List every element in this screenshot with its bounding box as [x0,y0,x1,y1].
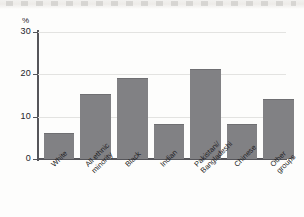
bar-black [117,78,148,159]
y-tick-label-0: 0 [26,154,31,163]
y-tick-label-10: 10 [21,112,31,121]
x-axis-category-labels: White All ethnic minority Black Indian P… [38,161,288,217]
y-tick-label-20: 20 [21,69,31,78]
gridline-30 [38,32,286,33]
plot-area [38,32,286,159]
gridline-10 [38,117,286,118]
y-axis-tick-labels: 30 20 10 0 [0,0,31,217]
y-tick-label-30: 30 [21,27,31,36]
scan-artifact-band [0,0,304,9]
gridline-20 [38,74,286,75]
chart-page: % 30 20 10 0 White All ethnic minority B… [0,0,304,217]
